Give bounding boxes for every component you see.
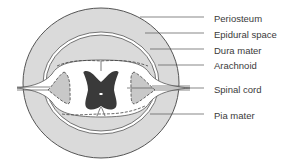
label-epidural-space: Epidural space (214, 29, 277, 40)
central-canal (100, 93, 103, 95)
label-dura-mater: Dura mater (214, 45, 262, 56)
label-arachnoid: Arachnoid (214, 60, 257, 71)
label-spinal-cord: Spinal cord (214, 84, 262, 95)
label-pia-mater: Pia mater (214, 110, 255, 121)
label-periosteum: Periosteum (214, 13, 262, 24)
spinal-cross-section-diagram (0, 0, 292, 164)
